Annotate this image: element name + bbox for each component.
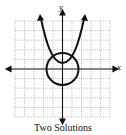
x-axis-label: x (117, 62, 121, 72)
graph-figure (0, 0, 126, 135)
x-axis-left-arrow-icon (6, 67, 11, 72)
parabola-right-arrow-icon (81, 14, 88, 21)
y-axis-label: y (59, 2, 63, 12)
figure-caption: Two Solutions (0, 122, 126, 133)
axes (6, 10, 118, 124)
parabola-left-arrow-icon (37, 14, 44, 21)
